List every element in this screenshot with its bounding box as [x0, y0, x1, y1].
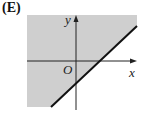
inequality-graph: y x O [0, 0, 146, 115]
origin-label: O [63, 62, 73, 77]
y-axis-label: y [63, 12, 71, 27]
x-axis-label: x [128, 65, 135, 80]
x-axis-arrow-icon [130, 59, 137, 64]
